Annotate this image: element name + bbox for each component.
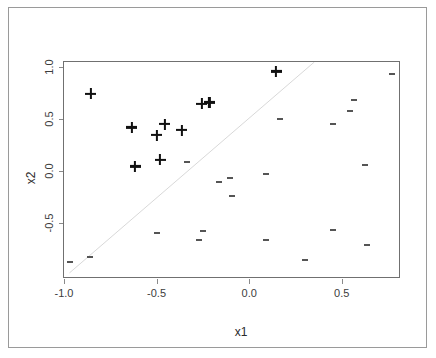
x-axis-tick-label: 0.0 <box>242 288 257 299</box>
x-axis-title: x1 <box>235 326 248 338</box>
screenshot-root: -0.50.00.51.0 -1.0-0.50.00.5 x2 x1 <box>0 0 436 358</box>
x-axis-tick-label: -0.5 <box>147 288 166 299</box>
plot-panel <box>63 61 400 278</box>
decision-boundary-line <box>64 62 399 277</box>
x-axis-tick <box>249 279 250 284</box>
y-axis-tick-label: 0.0 <box>44 163 55 178</box>
x-axis-tick <box>157 279 158 284</box>
x-axis-tick-label: -1.0 <box>55 288 74 299</box>
x-axis-tick <box>64 279 65 284</box>
x-axis-tick <box>342 279 343 284</box>
y-axis-tick-label: 1.0 <box>44 60 55 75</box>
y-axis-tick-label: -0.5 <box>44 213 55 232</box>
plot-area <box>64 62 399 277</box>
y-axis-title: x2 <box>25 172 37 185</box>
y-axis-tick-label: 0.5 <box>44 111 55 126</box>
x-axis-tick-label: 0.5 <box>334 288 349 299</box>
